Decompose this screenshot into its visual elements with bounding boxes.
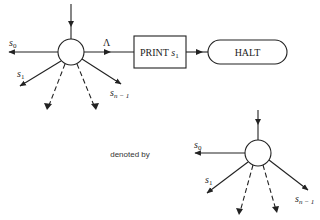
bottom-s1-label: s1 xyxy=(205,174,213,187)
bottom-branch-node-group: s0 s1 sn − 1 xyxy=(194,110,314,215)
print-box-label: PRINT s1 xyxy=(140,47,179,60)
dashed-arrowhead-right-icon xyxy=(91,103,99,110)
branch-node-circle xyxy=(58,39,84,65)
dashed-arrow-left xyxy=(48,64,65,108)
flowchart-diagram: s0 s1 sn − 1 Λ PRINT s1 HALT denoted by xyxy=(0,0,320,220)
bottom-s1-arrow xyxy=(207,162,248,193)
dashed-arrowhead-left-icon xyxy=(44,103,52,110)
caption-denoted-by: denoted by xyxy=(110,150,150,159)
lambda-arrowhead-icon xyxy=(104,49,111,55)
s1-arrow xyxy=(20,61,61,86)
dashed-arrow-right xyxy=(77,64,95,108)
top-branch-node-group: s0 s1 sn − 1 Λ xyxy=(9,4,134,110)
bottom-dashed-arrowhead-left-icon xyxy=(236,208,243,215)
sn-arrow xyxy=(82,59,121,84)
s1-label: s1 xyxy=(17,68,25,81)
incoming-arrowhead-icon xyxy=(68,21,74,27)
bottom-dashed-arrowhead-right-icon xyxy=(272,206,279,213)
bottom-sn-arrow xyxy=(269,160,308,190)
bottom-dashed-arrow-left xyxy=(240,165,253,212)
bottom-sn-label: sn − 1 xyxy=(295,193,314,206)
bottom-s0-label: s0 xyxy=(194,139,202,152)
bottom-dashed-arrow-right xyxy=(263,165,276,210)
halt-terminal: HALT xyxy=(208,40,287,64)
halt-label: HALT xyxy=(235,47,261,58)
sn-label: sn − 1 xyxy=(110,87,129,100)
print-to-halt-arrowhead-icon xyxy=(196,49,203,55)
print-box: PRINT s1 xyxy=(134,36,186,68)
bottom-incoming-arrowhead-icon xyxy=(255,119,261,125)
bottom-branch-node-circle xyxy=(245,140,271,166)
s0-label: s0 xyxy=(9,37,17,50)
lambda-label: Λ xyxy=(103,37,111,48)
